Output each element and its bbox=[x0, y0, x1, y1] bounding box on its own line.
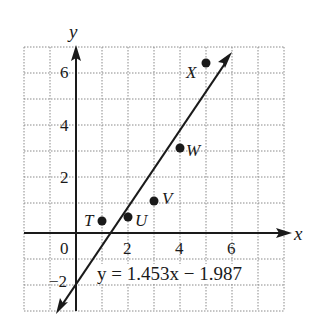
x-axis-label: x bbox=[294, 224, 302, 243]
label-V: V bbox=[162, 190, 172, 207]
y-tick-2: 2 bbox=[60, 169, 69, 186]
origin-label: 0 bbox=[60, 240, 69, 257]
x-tick-4: 4 bbox=[175, 240, 184, 257]
y-tick-4: 4 bbox=[60, 117, 69, 134]
point-V bbox=[150, 197, 159, 206]
point-W bbox=[176, 144, 185, 153]
line-arrow-top-icon bbox=[218, 52, 232, 68]
y-tick-neg2: −2 bbox=[49, 273, 67, 290]
point-X bbox=[202, 59, 211, 68]
point-T bbox=[98, 217, 107, 226]
label-W: W bbox=[186, 142, 200, 159]
label-X: X bbox=[186, 64, 196, 81]
label-T: T bbox=[84, 212, 93, 229]
regression-equation: y = 1.453x − 1.987 bbox=[95, 264, 244, 283]
label-U: U bbox=[135, 212, 147, 229]
x-tick-6: 6 bbox=[227, 240, 236, 257]
y-tick-6: 6 bbox=[60, 64, 69, 81]
y-axis-label: y bbox=[69, 22, 77, 41]
point-U bbox=[124, 213, 133, 222]
x-tick-2: 2 bbox=[123, 240, 132, 257]
